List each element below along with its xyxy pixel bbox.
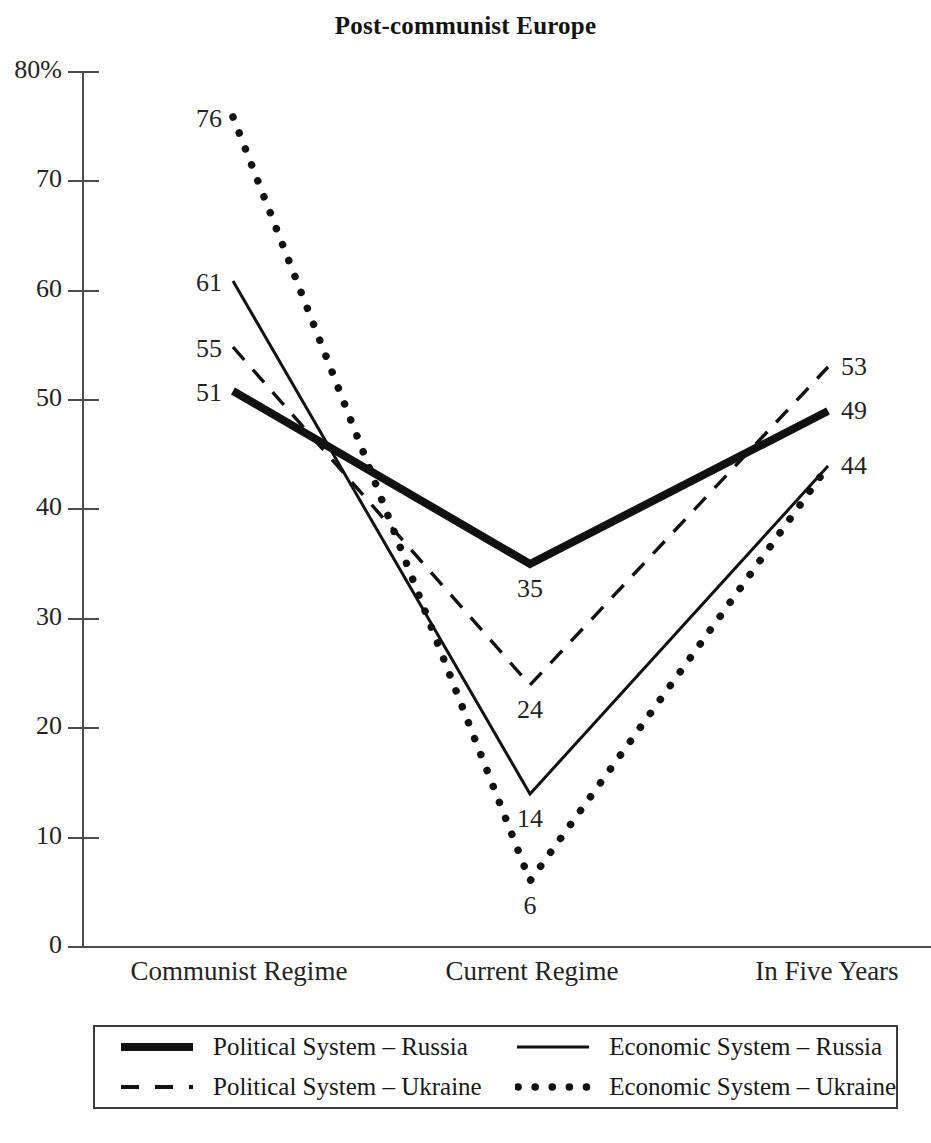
- legend-label-political-system-russia: Political System – Russia: [213, 1033, 468, 1061]
- y-tick-label-50: 50: [36, 383, 62, 412]
- value-label-35: 35: [517, 574, 543, 603]
- legend-swatch-thick-solid-icon: [119, 1039, 195, 1055]
- legend-swatch-dotted-icon: [515, 1079, 591, 1095]
- y-tick-label-10: 10: [36, 821, 62, 850]
- series-line-economic-system-ukraine: [233, 117, 828, 881]
- y-tick-label-60: 60: [36, 274, 62, 303]
- value-label-55: 55: [196, 334, 222, 363]
- value-label-24: 24: [517, 695, 543, 724]
- chart-root: Post-communist Europe 80% 70 60 50 40 30…: [0, 0, 931, 1143]
- value-label-51: 51: [196, 378, 222, 407]
- legend-label-economic-system-ukraine: Economic System – Ukraine: [609, 1073, 896, 1101]
- legend-swatch-thin-solid-icon: [515, 1039, 591, 1055]
- legend-item-economic-system-russia: Economic System – Russia: [491, 1033, 896, 1061]
- legend-label-economic-system-russia: Economic System – Russia: [609, 1033, 882, 1061]
- y-tick-label-70: 70: [36, 164, 62, 193]
- value-label-14: 14: [517, 804, 543, 833]
- value-label-44: 44: [841, 451, 867, 480]
- y-tick-label-0: 0: [49, 930, 62, 959]
- x-tick-label-in-five-years: In Five Years: [755, 956, 898, 986]
- value-label-76: 76: [196, 104, 222, 133]
- legend-item-economic-system-ukraine: Economic System – Ukraine: [491, 1073, 896, 1101]
- value-labels-in-five-years: 53 49 44: [841, 352, 867, 480]
- series-line-political-system-russia: [233, 391, 828, 564]
- x-axis-tick-labels: Communist Regime Current Regime In Five …: [131, 956, 899, 986]
- chart-legend: Political System – Russia Economic Syste…: [93, 1025, 898, 1109]
- line-chart-plot: 80% 70 60 50 40 30 20 10 0 76 61 55 51 3…: [0, 0, 931, 1143]
- value-label-53: 53: [841, 352, 867, 381]
- y-tick-label-80: 80%: [14, 55, 62, 84]
- y-tick-label-40: 40: [36, 492, 62, 521]
- y-tick-label-20: 20: [36, 711, 62, 740]
- series-line-political-system-ukraine: [233, 347, 828, 685]
- x-tick-label-communist-regime: Communist Regime: [131, 956, 348, 986]
- value-labels-communist-regime: 76 61 55 51: [196, 104, 222, 407]
- value-label-61: 61: [196, 268, 222, 297]
- y-axis-tick-labels: 80% 70 60 50 40 30 20 10 0: [14, 55, 62, 959]
- legend-label-political-system-ukraine: Political System – Ukraine: [213, 1073, 482, 1101]
- x-tick-label-current-regime: Current Regime: [445, 956, 618, 986]
- legend-item-political-system-ukraine: Political System – Ukraine: [95, 1073, 491, 1101]
- y-tick-label-30: 30: [36, 602, 62, 631]
- value-label-49: 49: [841, 396, 867, 425]
- value-label-6: 6: [524, 891, 537, 920]
- legend-item-political-system-russia: Political System – Russia: [95, 1033, 491, 1061]
- legend-swatch-dashed-icon: [119, 1079, 195, 1095]
